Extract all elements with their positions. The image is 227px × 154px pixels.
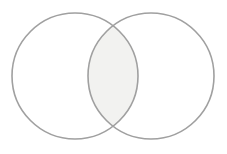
venn-diagram-canvas (0, 0, 227, 154)
venn-diagram-svg (0, 0, 227, 154)
